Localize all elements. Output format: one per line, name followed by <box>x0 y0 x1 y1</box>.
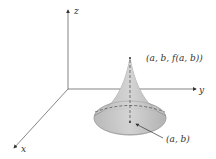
base-point-label: (a, b) <box>166 134 190 144</box>
x-axis <box>14 89 68 148</box>
peak-point-label: (a, b, f(a, b)) <box>146 53 203 63</box>
y-axis-label: y <box>198 85 205 95</box>
surface <box>94 57 166 135</box>
z-axis-label: z <box>73 6 79 16</box>
x-axis-label: x <box>21 144 26 154</box>
peak-point <box>129 57 131 59</box>
base-point <box>129 121 131 123</box>
diagram-canvas: z y x (a, b, f(a, b)) (a, b) <box>0 0 216 159</box>
